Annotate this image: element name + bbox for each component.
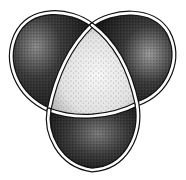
trefoil-illustration bbox=[0, 0, 186, 180]
trefoil-knot-surface bbox=[0, 0, 186, 180]
